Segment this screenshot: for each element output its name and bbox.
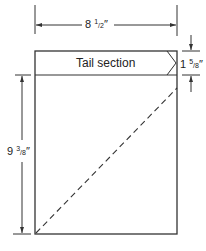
- body-height-label: 9 3/8″: [7, 145, 30, 157]
- width-whole: 8: [85, 18, 91, 30]
- width-dimension-label: 8 1/2″: [85, 18, 108, 30]
- arrowhead-up-icon: [189, 76, 193, 82]
- arrowhead-up-icon: [20, 76, 24, 82]
- pattern-diagram: [0, 0, 206, 251]
- arrowhead-down-icon: [189, 44, 193, 50]
- tail-section-label: Tail section: [76, 57, 135, 69]
- paper-outline: [35, 51, 177, 234]
- width-unit: ″: [104, 18, 108, 30]
- tail-whole: 1: [180, 58, 186, 70]
- arrowhead-down-icon: [20, 227, 24, 233]
- arrowhead-left-icon: [36, 23, 42, 27]
- tail-unit: ″: [199, 58, 203, 70]
- body-unit: ″: [26, 145, 30, 157]
- body-whole: 9: [7, 145, 13, 157]
- diagonal-fold-line: [36, 88, 177, 233]
- tail-height-label: 1 5/8″: [180, 58, 203, 70]
- tail-notch: [167, 51, 176, 75]
- arrowhead-right-icon: [170, 23, 176, 27]
